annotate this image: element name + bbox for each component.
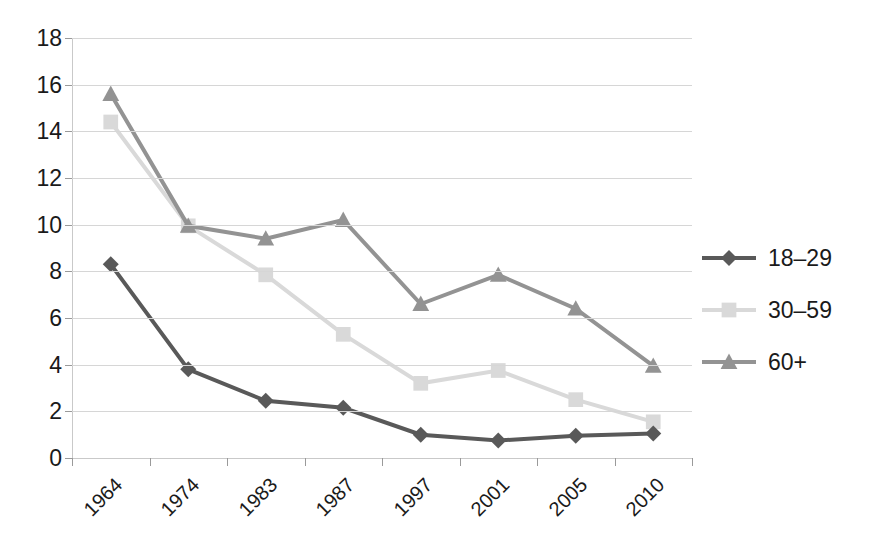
- y-axis-tick-label: 0: [49, 447, 62, 470]
- y-axis-tick: [65, 318, 72, 319]
- legend-item[interactable]: 60+: [700, 336, 880, 388]
- x-axis-tick-label: 1997: [390, 474, 436, 520]
- x-axis-tick: [692, 458, 693, 466]
- x-axis-tick-label: 1964: [80, 474, 126, 520]
- y-axis-tick-label: 14: [36, 120, 62, 143]
- line-chart: 024681012141618 196419741983198719972001…: [0, 0, 887, 548]
- legend: 18–2930–5960+: [700, 232, 880, 388]
- gridline: [72, 271, 692, 272]
- y-axis-tick: [65, 365, 72, 366]
- plot-area: [72, 38, 692, 458]
- y-axis-tick-label: 6: [49, 307, 62, 330]
- data-point: [103, 115, 118, 130]
- series-60-: [102, 86, 661, 373]
- gridline: [72, 225, 692, 226]
- data-point: [336, 327, 351, 342]
- x-axis-tick-label: 1983: [235, 474, 281, 520]
- legend-marker-triangle-icon: [700, 350, 758, 374]
- gridline: [72, 178, 692, 179]
- y-axis-tick-label: 4: [49, 353, 62, 376]
- y-axis-tick-label: 18: [36, 27, 62, 50]
- legend-marker-diamond-icon: [700, 246, 758, 270]
- y-axis-tick: [65, 458, 72, 459]
- x-axis-tick-label: 2010: [622, 474, 668, 520]
- data-point: [413, 376, 428, 391]
- x-axis-tick-label: 1987: [312, 474, 358, 520]
- y-axis-tick: [65, 225, 72, 226]
- legend-marker-square-icon: [700, 298, 758, 322]
- legend-label: 18–29: [768, 247, 832, 270]
- y-axis-tick: [65, 131, 72, 132]
- data-point: [335, 400, 351, 416]
- legend-item[interactable]: 30–59: [700, 284, 880, 336]
- data-point: [490, 433, 506, 449]
- series-18-29: [103, 256, 662, 448]
- gridline: [72, 411, 692, 412]
- series-line: [111, 264, 654, 440]
- series-layer: [72, 38, 692, 458]
- y-axis-tick-label: 16: [36, 73, 62, 96]
- x-axis-tick-label: 2005: [545, 474, 591, 520]
- data-point: [568, 428, 584, 444]
- data-point: [258, 267, 273, 282]
- gridline: [72, 85, 692, 86]
- legend-label: 60+: [768, 351, 807, 374]
- y-axis-tick: [65, 38, 72, 39]
- y-axis-tick: [65, 411, 72, 412]
- y-axis-tick-label: 10: [36, 213, 62, 236]
- data-point: [102, 86, 119, 101]
- y-axis-tick-label: 2: [49, 400, 62, 423]
- y-axis-tick: [65, 178, 72, 179]
- data-point: [490, 266, 507, 281]
- y-axis-tick: [65, 271, 72, 272]
- y-axis: 024681012141618: [0, 38, 62, 458]
- legend-label: 30–59: [768, 299, 832, 322]
- y-axis-tick-label: 8: [49, 260, 62, 283]
- gridline: [72, 318, 692, 319]
- x-axis: 19641974198319871997200120052010: [72, 458, 692, 528]
- legend-item[interactable]: 18–29: [700, 232, 880, 284]
- y-axis-tick-label: 12: [36, 167, 62, 190]
- x-axis-tick-label: 2001: [467, 474, 513, 520]
- data-point: [413, 427, 429, 443]
- y-axis-tick: [65, 85, 72, 86]
- gridline: [72, 131, 692, 132]
- gridline: [72, 365, 692, 366]
- data-point: [258, 393, 274, 409]
- gridline: [72, 38, 692, 39]
- x-axis-tick-label: 1974: [157, 474, 203, 520]
- data-point: [568, 392, 583, 407]
